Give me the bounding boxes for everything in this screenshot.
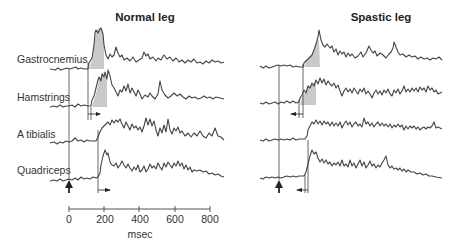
trace-a-tibialis-spastic — [260, 118, 442, 141]
panel-title-spastic: Spastic leg — [351, 11, 412, 23]
panel-title-normal: Normal leg — [115, 11, 174, 23]
trace-quadriceps-spastic — [260, 150, 442, 179]
stimulus-arrow-up-icon-normal — [67, 182, 72, 193]
trace-gastrocnemius-spastic — [260, 30, 442, 68]
arrowhead-right-icon — [96, 112, 101, 116]
label-hamstrings: Hamstrings — [17, 91, 70, 103]
x-axis: 0 200 400 600 800 msec — [66, 206, 219, 240]
stimulus-arrow-up-icon-spastic — [277, 182, 282, 193]
x-tick-label: 0 — [66, 213, 72, 225]
x-tick-label: 200 — [96, 213, 114, 225]
spastic-leg-panel — [260, 30, 442, 193]
trace-a-tibialis-normal — [50, 118, 224, 144]
x-tick-label: 400 — [131, 213, 149, 225]
arrowhead-left-icon — [290, 112, 296, 116]
emg-figure: Normal leg Spastic leg Gastrocnemius Ham… — [0, 0, 456, 250]
trace-hamstrings-spastic — [260, 78, 442, 104]
label-gastrocnemius: Gastrocnemius — [17, 53, 88, 65]
trace-quadriceps-normal — [50, 150, 224, 181]
label-quadriceps: Quadriceps — [17, 164, 71, 176]
x-tick-label: 800 — [201, 213, 219, 225]
arrowhead-left-icon — [296, 188, 302, 192]
x-axis-label: msec — [127, 228, 152, 240]
shade-ham-spastic — [300, 80, 316, 105]
shade-gastro-normal — [89, 28, 104, 69]
trace-hamstrings-normal — [50, 70, 224, 107]
arrowhead-right-icon — [105, 188, 111, 192]
label-a-tibialis: A tibialis — [17, 128, 56, 140]
x-tick-label: 600 — [166, 213, 184, 225]
shade-gastro-spastic — [304, 40, 320, 67]
